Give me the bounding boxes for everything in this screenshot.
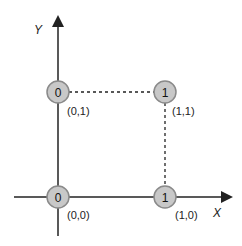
node-coord: (1,1) <box>172 105 195 117</box>
node-0-0: 0 (0,0) <box>47 186 90 221</box>
node-value: 1 <box>162 86 169 100</box>
x-axis-label: X <box>212 206 222 220</box>
node-value: 1 <box>162 191 169 205</box>
node-value: 0 <box>55 86 62 100</box>
diagram-svg: Y X 0 (0,1) 1 (1,1) 0 (0,0) 1 (1,0) <box>0 0 242 246</box>
node-coord: (0,1) <box>67 105 90 117</box>
y-axis-label: Y <box>34 23 43 37</box>
node-1-1: 1 (1,1) <box>154 81 195 117</box>
node-value: 0 <box>55 191 62 205</box>
node-0-1: 0 (0,1) <box>47 81 90 117</box>
node-1-0: 1 (1,0) <box>154 186 198 221</box>
node-coord: (1,0) <box>175 209 198 221</box>
xor-diagram: Y X 0 (0,1) 1 (1,1) 0 (0,0) 1 (1,0) <box>0 0 242 246</box>
node-coord: (0,0) <box>67 209 90 221</box>
